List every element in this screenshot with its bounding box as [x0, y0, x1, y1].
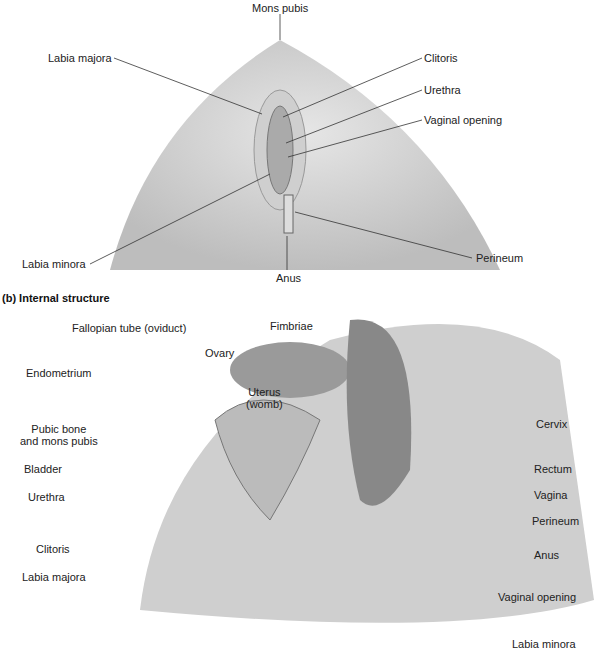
- anatomy-diagram: Mons pubis Labia majora Clitoris Urethra…: [0, 0, 594, 654]
- label: Anus: [276, 272, 301, 284]
- label: Uterus (womb): [246, 386, 283, 410]
- label: Labia minora: [512, 638, 576, 650]
- label: Urethra: [424, 84, 461, 96]
- label: Ovary: [205, 347, 234, 359]
- label: Bladder: [24, 463, 62, 475]
- label: Cervix: [536, 418, 567, 430]
- label: Perineum: [476, 252, 523, 264]
- label: Anus: [534, 549, 559, 561]
- label: Urethra: [28, 491, 65, 503]
- label: Fallopian tube (oviduct): [72, 322, 186, 334]
- label: Vagina: [534, 489, 567, 501]
- section-title: (b) Internal structure: [2, 292, 110, 304]
- label: Vaginal opening: [498, 591, 576, 603]
- label: Fimbriae: [270, 320, 313, 332]
- label: Labia majora: [22, 571, 86, 583]
- label: Labia majora: [48, 52, 112, 64]
- label: Clitoris: [36, 543, 70, 555]
- label: Mons pubis: [252, 2, 308, 14]
- label: Vaginal opening: [424, 114, 502, 126]
- label: Endometrium: [26, 367, 91, 379]
- label: Pubic bone and mons pubis: [20, 423, 98, 447]
- label: Clitoris: [424, 52, 458, 64]
- label: Perineum: [532, 515, 579, 527]
- label: Labia minora: [22, 258, 86, 270]
- label: Rectum: [534, 463, 572, 475]
